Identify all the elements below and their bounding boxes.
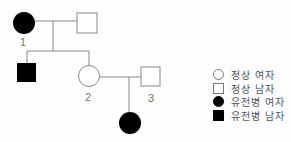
label-individual-2: 2 [85, 91, 91, 103]
label-individual-1: 1 [20, 36, 26, 48]
legend-item-normal-male: 정상 남자 [213, 82, 285, 95]
normal-female-2 [79, 66, 100, 87]
affected-female-1 [13, 12, 35, 34]
normal-male-gen1 [77, 13, 97, 33]
legend-item-affected-male: 유전병 남자 [213, 109, 285, 122]
open-square-icon [213, 83, 224, 94]
label-individual-3: 3 [148, 92, 154, 104]
legend-item-normal-female: 정상 여자 [213, 68, 285, 81]
legend-label: 유전병 남자 [231, 108, 285, 123]
open-circle-icon [213, 69, 224, 80]
legend-item-affected-female: 유전병 여자 [213, 95, 285, 108]
filled-circle-icon [213, 96, 224, 107]
normal-male-3 [141, 67, 160, 86]
filled-square-icon [213, 110, 224, 121]
affected-female-daughter [119, 112, 141, 134]
affected-male-son [17, 63, 36, 82]
legend: 정상 여자 정상 남자 유전병 여자 유전병 남자 [213, 68, 285, 122]
